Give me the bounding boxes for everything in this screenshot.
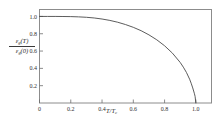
plot-area: 00.20.40.60.81.0 0.20.40.60.81.0	[0, 0, 223, 122]
y-tick-label: 0.2	[30, 83, 38, 89]
y-axis-label-denominator: εg(0)	[7, 48, 37, 56]
y-tick-label: 1.0	[30, 14, 38, 20]
bcs-energy-gap-figure: 00.20.40.60.81.0 0.20.40.60.81.0 εg(T) ε…	[0, 0, 223, 122]
x-axis-label: T/Tc	[0, 107, 223, 115]
plot-frame	[40, 10, 212, 104]
y-tick-label: 0.8	[30, 31, 38, 37]
y-axis-label: εg(T) εg(0)	[7, 38, 37, 56]
y-axis-label-numerator: εg(T)	[7, 38, 37, 46]
y-tick-label: 0.4	[30, 65, 38, 71]
